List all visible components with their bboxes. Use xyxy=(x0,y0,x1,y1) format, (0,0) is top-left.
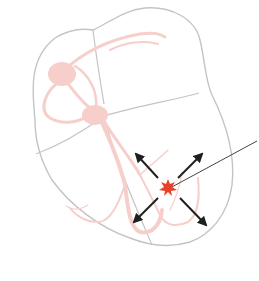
ectopic-focus-star xyxy=(159,179,177,196)
sa-node xyxy=(48,62,76,86)
arrow-up-right xyxy=(178,154,202,178)
heart-svg xyxy=(0,0,259,281)
av-plane-right xyxy=(104,93,199,116)
heart-diagram xyxy=(0,0,259,281)
septum-lower xyxy=(104,116,152,245)
callout-leader-line xyxy=(170,141,257,188)
arrow-down-right xyxy=(180,198,206,225)
av-node xyxy=(82,105,108,125)
